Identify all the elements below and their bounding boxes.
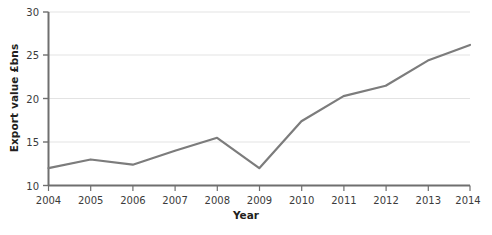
line-chart: 30 25 20 15 10 2004 2005 2006 2007 2008 <box>0 0 492 235</box>
y-tick-label: 20 <box>26 94 39 105</box>
x-tick-label: 2006 <box>120 195 145 206</box>
y-tick-label: 25 <box>26 50 39 61</box>
data-series-line <box>49 45 471 168</box>
x-tick-labels: 2004 2005 2006 2007 2008 2009 2010 2011 … <box>36 195 481 206</box>
x-tick-label: 2004 <box>36 195 61 206</box>
y-tick-labels: 30 25 20 15 10 <box>26 7 39 192</box>
x-tick-label: 2011 <box>331 195 356 206</box>
y-axis <box>43 12 49 186</box>
x-tick-label: 2013 <box>416 195 441 206</box>
x-tick-label: 2010 <box>289 195 314 206</box>
y-axis-title: Export value £bns <box>2 0 26 195</box>
x-tick-label: 2009 <box>247 195 272 206</box>
x-tick-label: 2005 <box>78 195 103 206</box>
x-tick-label: 2007 <box>162 195 187 206</box>
x-axis <box>48 186 470 192</box>
x-axis-title: Year <box>0 209 492 221</box>
y-tick-label: 10 <box>26 181 39 192</box>
x-tick-label: 2008 <box>205 195 230 206</box>
y-axis-title-text: Export value £bns <box>8 43 20 152</box>
y-tick-label: 15 <box>26 137 39 148</box>
x-tick-label: 2012 <box>373 195 398 206</box>
x-tick-label: 2014 <box>455 195 480 206</box>
chart-plot-area: 30 25 20 15 10 2004 2005 2006 2007 2008 <box>0 0 492 235</box>
gridlines <box>48 12 470 142</box>
y-tick-label: 30 <box>26 7 39 18</box>
